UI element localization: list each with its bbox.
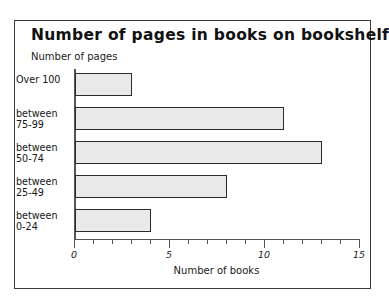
x-axis-tick-label: 5 [166,249,172,260]
x-axis-minor-tick [207,239,208,244]
category-label: between 0-24 [16,210,72,232]
category-label: between 50-74 [16,142,72,164]
bar [75,141,322,164]
x-axis-minor-tick [245,239,246,244]
x-axis-tick-label: 15 [353,249,365,260]
x-axis-minor-tick [188,239,189,244]
x-axis-major-tick [359,239,360,248]
x-axis-minor-tick [226,239,227,244]
category-label: between 25-49 [16,176,72,198]
x-axis-minor-tick [112,239,113,244]
y-axis-title: Number of pages [31,51,117,62]
x-axis-title: Number of books [74,265,359,276]
category-label-text: between 25-49 [16,176,72,198]
category-label: Over 100 [16,74,72,85]
x-axis-tick-label: 0 [71,249,77,260]
x-axis-line [74,239,359,240]
x-axis-major-tick [74,239,75,248]
plot-area: Over 100between 75-99between 50-74betwee… [74,69,362,255]
x-axis-minor-tick [340,239,341,244]
bar [75,107,284,130]
chart-title: Number of pages in books on bookshelf [31,26,389,44]
category-label-text: between 75-99 [16,108,72,130]
x-axis-minor-tick [302,239,303,244]
x-axis-major-tick [264,239,265,248]
bar [75,73,132,96]
bar [75,175,227,198]
x-axis-major-tick [169,239,170,248]
category-label-text: between 50-74 [16,142,72,164]
x-axis-minor-tick [321,239,322,244]
x-axis-minor-tick [131,239,132,244]
category-label-text: between 0-24 [16,210,72,232]
category-label-text: Over 100 [16,74,72,85]
bar [75,209,151,232]
x-axis-minor-tick [150,239,151,244]
x-axis-minor-tick [283,239,284,244]
x-axis-tick-label: 10 [258,249,270,260]
category-label: between 75-99 [16,108,72,130]
x-axis-minor-tick [93,239,94,244]
chart-frame: Number of pages in books on bookshelf Nu… [14,20,371,289]
